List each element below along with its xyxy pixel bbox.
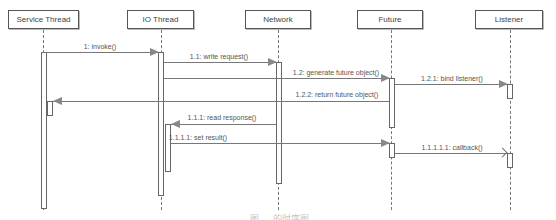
activation-io-thread bbox=[158, 52, 164, 196]
activation-listener-2 bbox=[507, 153, 513, 168]
message-generate-future bbox=[164, 78, 389, 79]
arrow-head-icon bbox=[499, 80, 508, 88]
actor-label: Service Thread bbox=[16, 15, 70, 24]
arrow-head-icon bbox=[381, 139, 390, 147]
arrow-head-icon bbox=[150, 48, 159, 56]
message-return-future bbox=[53, 101, 389, 102]
message-invoke bbox=[41, 52, 158, 53]
message-write-request bbox=[164, 62, 276, 63]
open-arrow-icon bbox=[498, 148, 508, 158]
message-bind-listener bbox=[395, 84, 507, 85]
actor-future: Future bbox=[357, 10, 423, 29]
message-label: 1: invoke() bbox=[84, 43, 117, 50]
message-label: 1.1.1.1: set result() bbox=[169, 134, 227, 141]
arrow-head-icon bbox=[171, 120, 180, 128]
actor-label: IO Thread bbox=[143, 15, 179, 24]
actor-io-thread: IO Thread bbox=[127, 10, 194, 29]
activation-service-thread bbox=[41, 52, 47, 209]
message-label: 1.1.1: read response() bbox=[188, 114, 257, 121]
actor-label: Future bbox=[378, 15, 401, 24]
message-label: 1.2.2: return future object() bbox=[296, 91, 379, 98]
arrow-head-icon bbox=[381, 74, 390, 82]
arrow-head-icon bbox=[53, 97, 62, 105]
actor-label: Listener bbox=[495, 15, 523, 24]
activation-io-thread-nested bbox=[165, 124, 171, 172]
actor-listener: Listener bbox=[475, 10, 543, 29]
message-label: 1.1: write request() bbox=[190, 53, 248, 60]
activation-future bbox=[389, 78, 395, 128]
actor-network: Network bbox=[245, 10, 311, 29]
activation-network bbox=[276, 62, 282, 184]
message-label: 1.1.1.1.1: callback() bbox=[421, 144, 482, 151]
figure-caption: 图 … 的时序图 bbox=[190, 212, 370, 220]
actor-service-thread: Service Thread bbox=[8, 10, 79, 29]
arrow-head-icon bbox=[268, 58, 277, 66]
lifeline-listener bbox=[510, 30, 511, 210]
message-label: 1.2.1: bind listener() bbox=[421, 75, 483, 82]
actor-label: Network bbox=[263, 15, 292, 24]
message-read-response bbox=[171, 124, 276, 125]
message-label: 1.2: generate future object() bbox=[293, 69, 379, 76]
message-callback bbox=[395, 153, 507, 154]
message-set-result bbox=[171, 143, 389, 144]
